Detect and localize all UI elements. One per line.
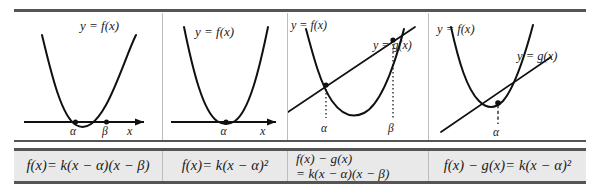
line-g-4 — [441, 57, 551, 132]
label-root-alpha-3: α — [321, 122, 328, 134]
label-curve-f-1: y = f(x) — [78, 18, 119, 33]
root-point-beta-1 — [104, 120, 109, 125]
table-bottom-rule — [14, 181, 586, 184]
graph-cell-2: y = f(x) α x — [162, 13, 287, 140]
graph-cell-4: y = f(x) y = g(x) α — [428, 13, 586, 140]
label-curve-f-4: y = f(x) — [435, 22, 475, 36]
comparison-table: y = f(x) α β x y = f(x) α x — [14, 9, 586, 183]
label-root-alpha-1: α — [70, 125, 77, 137]
label-curve-f-3: y = f(x) — [290, 18, 327, 32]
label-curve-g-4: y = g(x) — [515, 49, 557, 63]
label-root-alpha-2: α — [221, 125, 228, 137]
label-root-beta-3: β — [387, 122, 394, 135]
formula-cell-4: f(x) − g(x)= k(x − α)² — [428, 151, 586, 181]
formula-cell-3: f(x) − g(x) = k(x − α)(x − β) — [287, 151, 428, 181]
tangent-point-alpha-4 — [495, 100, 501, 106]
root-point-alpha-2 — [223, 119, 228, 124]
formula-text-3-line-1: f(x) − g(x) — [296, 151, 428, 166]
intersection-point-alpha-3 — [323, 82, 328, 87]
label-curve-f-2: y = f(x) — [193, 24, 234, 39]
label-curve-g-3: y = g(x) — [372, 38, 412, 52]
parabola-curve-2 — [184, 27, 268, 124]
formula-row: f(x)= k(x − α)(x − β) f(x)= k(x − α)² f(… — [14, 151, 586, 181]
formula-text-4: f(x) − g(x)= k(x − α)² — [444, 158, 572, 173]
formula-text-3-line-2: = k(x − α)(x − β) — [296, 166, 428, 181]
graph-svg-4: y = f(x) y = g(x) α — [429, 13, 586, 140]
parabola-curve-4 — [451, 25, 533, 107]
graph-cell-1: y = f(x) α β x — [14, 13, 162, 140]
parabola-curve-1 — [42, 35, 136, 127]
label-root-alpha-4: α — [493, 126, 500, 138]
label-axis-x-2: x — [259, 124, 266, 138]
graph-svg-1: y = f(x) α β x — [14, 13, 162, 140]
formula-cell-2: f(x)= k(x − α)² — [162, 151, 287, 181]
graph-row: y = f(x) α β x y = f(x) α x — [14, 13, 586, 140]
formula-text-3: f(x) − g(x) = k(x − α)(x − β) — [288, 151, 428, 181]
formula-text-1: f(x)= k(x − α)(x − β) — [26, 158, 149, 173]
figure-root: y = f(x) α β x y = f(x) α x — [0, 0, 599, 194]
label-axis-x-1: x — [126, 124, 133, 138]
root-point-alpha-1 — [73, 120, 78, 125]
label-root-beta-1: β — [101, 125, 108, 138]
x-axis-arrow-1 — [135, 119, 144, 126]
x-axis-arrow-2 — [267, 119, 276, 126]
graph-svg-2: y = f(x) α x — [163, 13, 287, 140]
table-top-rule — [14, 9, 586, 12]
table-middle-rule — [14, 140, 586, 142]
graph-svg-3: y = f(x) y = g(x) α β — [288, 13, 428, 140]
formula-cell-1: f(x)= k(x − α)(x − β) — [14, 151, 162, 181]
formula-text-2: f(x)= k(x − α)² — [182, 158, 269, 173]
graph-cell-3: y = f(x) y = g(x) α β — [287, 13, 428, 140]
